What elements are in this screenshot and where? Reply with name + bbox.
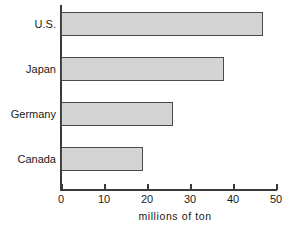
x-tick-mark — [190, 184, 192, 190]
bar-germany — [61, 102, 173, 126]
bar-us — [61, 12, 263, 36]
x-tick-mark — [104, 184, 106, 190]
x-tick-mark — [276, 184, 278, 190]
x-tick-label: 10 — [84, 193, 124, 205]
bar-japan — [61, 57, 224, 81]
category-label-germany: Germany — [0, 102, 56, 126]
x-tick-label: 40 — [213, 193, 253, 205]
plot-area: U.S. Japan Germany Canada 0 10 20 30 40 … — [0, 0, 289, 232]
x-tick-label: 20 — [127, 193, 167, 205]
x-tick-label: 30 — [170, 193, 210, 205]
bar-chart-figure: U.S. Japan Germany Canada 0 10 20 30 40 … — [0, 0, 289, 232]
x-tick-label: 0 — [41, 193, 81, 205]
category-label-japan: Japan — [0, 57, 56, 81]
x-tick-mark — [61, 184, 63, 190]
x-tick-mark — [233, 184, 235, 190]
category-label-canada: Canada — [0, 147, 56, 171]
x-axis-title: millions of ton — [61, 210, 289, 222]
bar-canada — [61, 147, 143, 171]
x-tick-label: 50 — [256, 193, 289, 205]
x-tick-mark — [147, 184, 149, 190]
x-axis-line — [60, 189, 277, 191]
category-label-us: U.S. — [0, 12, 56, 36]
